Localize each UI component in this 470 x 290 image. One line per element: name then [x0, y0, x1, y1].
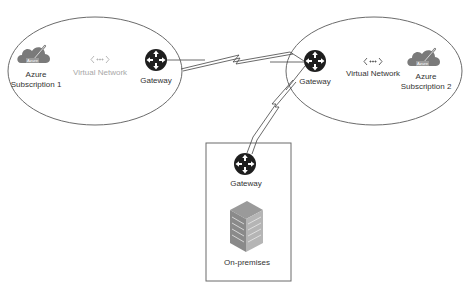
gateway-onprem-label: Gateway [230, 179, 262, 189]
azure-cloud-icon[interactable] [17, 46, 50, 63]
connection-vpn-1-to-2 [167, 52, 304, 71]
virtual-network-1-label: Virtual Network [73, 68, 127, 78]
azure-cloud-icon[interactable] [407, 49, 440, 66]
gateway-router-icon[interactable] [304, 50, 326, 72]
virtual-network-icon[interactable] [364, 58, 382, 65]
subscription-2-label-line2: Subscription 2 [401, 82, 452, 92]
subscription-1-label-line1: Azure [26, 70, 47, 80]
connection-vpn-2-to-onprem [247, 66, 305, 154]
diagram-canvas: Azure [0, 0, 470, 290]
virtual-network-2-label: Virtual Network [346, 69, 400, 79]
gateway-router-icon[interactable] [145, 49, 167, 71]
gateway-1-label: Gateway [140, 76, 172, 86]
subscription-1-label-line2: Subscription 1 [11, 80, 62, 90]
gateway-2-label: Gateway [299, 77, 331, 87]
building-icon[interactable] [230, 201, 263, 252]
virtual-network-icon[interactable] [91, 56, 109, 63]
gateway-router-icon[interactable] [234, 153, 256, 175]
subscription-2-label-line1: Azure [416, 72, 437, 82]
on-premises-label: On-premises [224, 258, 270, 268]
